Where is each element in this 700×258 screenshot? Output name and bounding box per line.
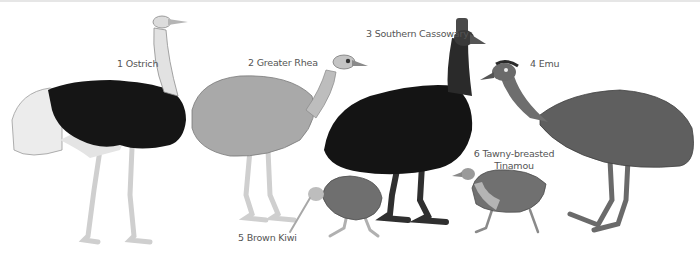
label-tinamou: 6 Tawny-breasted Tinamou	[466, 148, 562, 172]
label-ostrich: 1 Ostrich	[117, 58, 158, 70]
label-brown-kiwi: 5 Brown Kiwi	[238, 232, 297, 244]
label-tinamou-line1: 6 Tawny-breasted	[466, 148, 562, 160]
label-greater-rhea: 2 Greater Rhea	[248, 57, 318, 69]
label-southern-cassowary: 3 Southern Cassowary	[366, 28, 469, 40]
birds-artwork	[0, 0, 700, 258]
label-emu: 4 Emu	[530, 58, 559, 70]
tinamou-illustration	[452, 168, 546, 232]
bird-illustration: 1 Ostrich 2 Greater Rhea 3 Southern Cass…	[0, 0, 700, 258]
ostrich-illustration	[12, 16, 188, 242]
label-tinamou-line2: Tinamou	[466, 160, 562, 172]
kiwi-illustration	[290, 176, 382, 236]
